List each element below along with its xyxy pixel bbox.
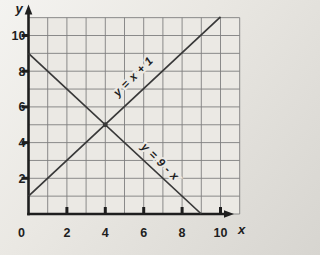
y-axis-label: y <box>14 1 23 16</box>
x-tick-label: 0 <box>18 226 25 240</box>
x-tick-label: 8 <box>179 226 186 240</box>
y-tick-label: 2 <box>19 172 26 186</box>
textbook-graph-figure: y x 0246810246810y = x + 1y = 9 - x <box>0 0 254 255</box>
plot-area <box>29 18 240 214</box>
y-tick-label: 6 <box>19 100 26 114</box>
x-tick-label: 4 <box>102 226 109 240</box>
x-axis-label: x <box>237 222 246 237</box>
y-axis-arrow-icon <box>25 5 33 15</box>
graph: y x 0246810246810y = x + 1y = 9 - x <box>0 0 254 255</box>
intersection-point <box>103 122 108 127</box>
x-tick-label: 6 <box>140 226 147 240</box>
x-tick-label: 2 <box>63 226 70 240</box>
x-tick-label: 10 <box>214 226 228 240</box>
y-tick-label: 10 <box>12 29 26 43</box>
y-tick-label: 8 <box>19 65 26 79</box>
y-tick-label: 4 <box>19 136 26 150</box>
